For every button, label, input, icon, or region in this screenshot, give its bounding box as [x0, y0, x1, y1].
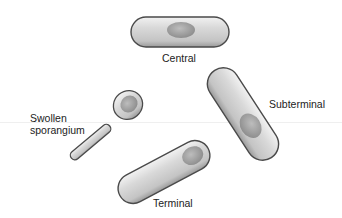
label-subterminal: Subterminal: [269, 98, 325, 110]
subterminal-cell: [201, 62, 284, 167]
central-spore: [167, 22, 195, 38]
label-sporangium: sporangium: [30, 124, 85, 136]
endospore-diagram: Central Subterminal Swollen sporangium T…: [0, 0, 342, 218]
label-central: Central: [162, 52, 196, 64]
central-cell: [131, 17, 229, 47]
label-swollen: Swollen: [30, 112, 67, 124]
label-terminal: Terminal: [153, 197, 193, 209]
